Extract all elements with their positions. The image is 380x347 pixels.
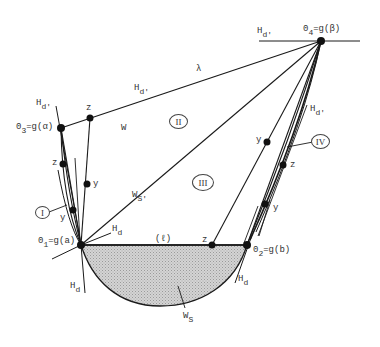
- point-z-top: [87, 115, 94, 122]
- label-y-mid-left: y: [93, 180, 98, 189]
- tangent-hd-o1-right: [81, 233, 111, 245]
- label-hd-o1-bottom: Hd: [70, 282, 80, 291]
- diagram-svg: [0, 0, 380, 347]
- label-ell: (ℓ): [155, 235, 171, 244]
- label-hd-o1-right: Hd: [112, 225, 122, 234]
- label-hd-o2-bottom: Hd: [238, 275, 248, 284]
- point-y-mid-left: [84, 181, 91, 188]
- label-o3: 03=g(α): [16, 123, 53, 132]
- label-ws-prime: WS': [132, 191, 147, 200]
- label-z-right: z: [290, 161, 295, 170]
- label-o4: 04=g(β): [303, 25, 340, 34]
- label-hd-prime-right: Hd': [310, 105, 325, 114]
- diagram-canvas: 01=g(a) 02=g(b) 03=g(α) 04=g(β) Hd' Hd' …: [0, 0, 380, 347]
- point-z-right: [280, 162, 287, 169]
- label-hd-prime-lambda: Hd': [134, 84, 149, 93]
- label-z-top: z: [86, 104, 91, 113]
- label-y-right: y: [273, 204, 278, 213]
- region-label-iii: III: [192, 174, 214, 191]
- point-z-left: [60, 161, 67, 168]
- point-o2: [243, 241, 251, 249]
- point-z-segment: [209, 242, 216, 249]
- label-z-left: z: [52, 159, 57, 168]
- leader-region-i: [49, 205, 67, 212]
- label-ws: WS: [183, 312, 193, 321]
- label-lambda: λ: [196, 65, 201, 74]
- point-o3: [57, 124, 65, 132]
- point-o4: [317, 37, 325, 45]
- point-y-upper-right: [264, 139, 271, 146]
- region-label-ii: II: [169, 114, 188, 129]
- region-label-i: I: [35, 206, 50, 219]
- point-o1: [77, 241, 85, 249]
- label-hd-prime-left: Hd': [36, 99, 51, 108]
- curve-o3-o1-c: [61, 128, 81, 245]
- label-y-upper-right: y: [256, 136, 261, 145]
- point-y-right: [262, 201, 269, 208]
- label-y-left: y: [60, 214, 65, 223]
- label-w: W: [121, 124, 126, 133]
- label-o2: 02=g(b): [253, 246, 290, 255]
- label-hd-prime-top: Hd': [257, 27, 272, 36]
- tangent-hd-o1-left: [52, 245, 81, 259]
- point-y-left: [70, 207, 77, 214]
- ws-shaded-region: [81, 245, 247, 306]
- label-o1: 01=g(a): [38, 237, 75, 246]
- region-label-iv: IV: [311, 134, 330, 149]
- label-z-segment: z: [202, 236, 207, 245]
